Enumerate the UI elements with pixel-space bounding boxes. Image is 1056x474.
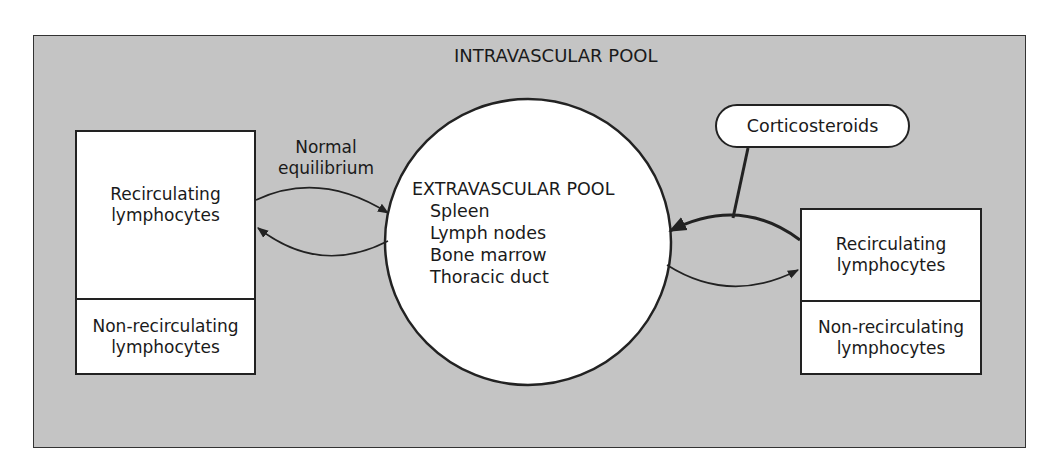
left-recirculating-cell: Recirculating lymphocytes [77, 132, 254, 298]
organ-spleen: Spleen [412, 200, 614, 222]
right-nonrecirculating-line2: lymphocytes [818, 338, 964, 359]
left-nonrecirculating-line1: Non-recirculating [92, 316, 238, 337]
left-recirculating-line1: Recirculating [110, 184, 220, 205]
extravascular-pool-text: EXTRAVASCULAR POOL Spleen Lymph nodes Bo… [412, 178, 614, 288]
organ-thoracic-duct: Thoracic duct [412, 266, 614, 288]
left-recirculating-line2: lymphocytes [110, 205, 220, 226]
left-nonrecirculating-line2: lymphocytes [92, 337, 238, 358]
right-recirculating-line1: Recirculating [836, 234, 946, 255]
normal-equilibrium-line1: Normal [276, 137, 376, 158]
right-recirculating-line2: lymphocytes [836, 255, 946, 276]
left-nonrecirculating-cell: Non-recirculating lymphocytes [77, 298, 254, 373]
right-nonrecirculating-line1: Non-recirculating [818, 317, 964, 338]
right-lymphocyte-box: Recirculating lymphocytes Non-recirculat… [800, 208, 982, 375]
normal-equilibrium-label: Normal equilibrium [276, 137, 376, 179]
right-recirculating-cell: Recirculating lymphocytes [802, 210, 980, 300]
normal-equilibrium-line2: equilibrium [276, 158, 376, 179]
left-lymphocyte-box: Recirculating lymphocytes Non-recirculat… [75, 130, 256, 375]
right-nonrecirculating-cell: Non-recirculating lymphocytes [802, 300, 980, 373]
extravascular-pool-title: EXTRAVASCULAR POOL [412, 178, 614, 200]
organ-bone-marrow: Bone marrow [412, 244, 614, 266]
intravascular-pool-title: INTRAVASCULAR POOL [454, 45, 658, 66]
corticosteroids-pill: Corticosteroids [715, 104, 910, 148]
organ-lymph-nodes: Lymph nodes [412, 222, 614, 244]
